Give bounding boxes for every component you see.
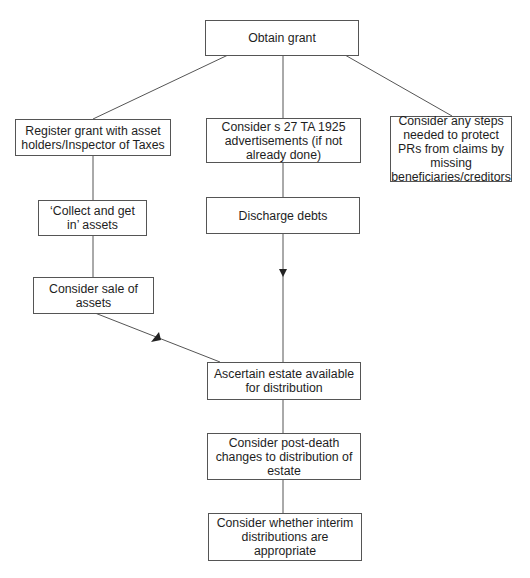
node-ascertain-estate: Ascertain estate available for distribut… — [207, 362, 361, 400]
node-label: Obtain grant — [248, 31, 316, 45]
node-label: Ascertain estate available for distribut… — [212, 367, 356, 395]
edge-obtain-to-register — [93, 55, 228, 119]
node-obtain-grant: Obtain grant — [205, 20, 359, 56]
node-label: Discharge debts — [239, 209, 328, 223]
node-post-death-changes: Consider post-death changes to distribut… — [207, 433, 361, 480]
edge-obtain-to-protect — [345, 55, 452, 116]
node-collect-assets: ‘Collect and get in’ assets — [38, 200, 147, 236]
node-label: Consider any steps needed to protect PRs… — [391, 114, 511, 184]
node-protect-prs: Consider any steps needed to protect PRs… — [390, 116, 512, 182]
node-discharge-debts: Discharge debts — [206, 197, 360, 234]
arrowhead-down-icon — [279, 269, 287, 277]
node-consider-s27: Consider s 27 TA 1925 advertisements (if… — [206, 118, 361, 163]
node-label: Consider sale of assets — [38, 282, 149, 310]
arrowhead-diagonal-icon — [151, 332, 161, 342]
node-label: Register grant with asset holders/Inspec… — [20, 124, 166, 152]
node-label: Consider post-death changes to distribut… — [212, 436, 356, 478]
node-sale-of-assets: Consider sale of assets — [33, 277, 154, 314]
node-interim-distributions: Consider whether interim distributions a… — [208, 513, 362, 561]
node-label: ‘Collect and get in’ assets — [43, 204, 142, 232]
node-label: Consider s 27 TA 1925 advertisements (if… — [211, 120, 356, 162]
node-label: Consider whether interim distributions a… — [213, 516, 357, 558]
node-register-grant: Register grant with asset holders/Inspec… — [15, 119, 171, 156]
